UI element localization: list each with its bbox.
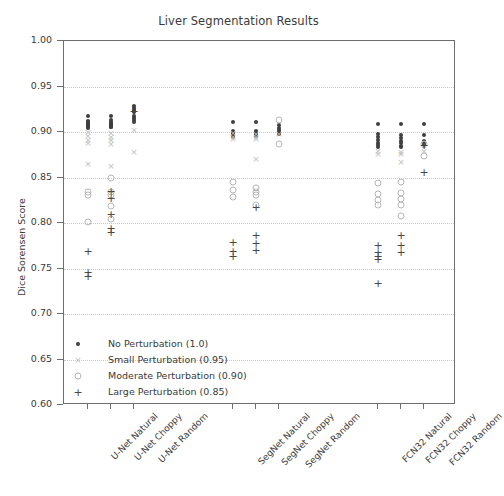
data-point: ×: [107, 139, 116, 148]
gridline: [64, 178, 454, 179]
data-point: [376, 138, 380, 142]
gridline: [64, 223, 454, 224]
data-point: ×: [397, 157, 406, 166]
data-point: [421, 153, 428, 160]
data-point: [86, 121, 90, 125]
data-point: [422, 142, 426, 146]
data-point: ×: [420, 146, 429, 155]
data-point: [254, 133, 258, 137]
data-point: +: [374, 251, 383, 260]
y-axis-tick-label: 0.85: [0, 171, 52, 182]
data-point: [132, 114, 136, 118]
data-point: [422, 122, 426, 126]
legend-label: Large Perturbation (0.85): [108, 384, 228, 400]
data-point: [376, 135, 380, 139]
data-point: ×: [130, 126, 139, 135]
data-point: +: [84, 271, 93, 280]
data-point: ×: [229, 132, 238, 141]
data-point: [422, 139, 426, 143]
data-point: [398, 189, 405, 196]
data-point: +: [107, 223, 116, 232]
y-axis-tick-label: 0.80: [0, 216, 52, 227]
data-point: +: [374, 248, 383, 257]
data-point: [132, 106, 136, 110]
data-point: [231, 120, 235, 124]
data-point: +: [397, 240, 406, 249]
data-point: [109, 118, 113, 122]
data-point: [399, 145, 403, 149]
data-point: [277, 126, 281, 130]
y-axis-tick-label: 0.95: [0, 80, 52, 91]
data-point: [108, 202, 115, 209]
legend-item: ×Small Perturbation (0.95): [72, 352, 262, 368]
data-point: [86, 120, 90, 124]
data-point: [399, 144, 403, 148]
gridline: [64, 87, 454, 88]
y-axis-tick-label: 0.70: [0, 307, 52, 318]
x-axis-tick-mark: [110, 404, 111, 409]
data-point: [376, 145, 380, 149]
data-point: ×: [229, 134, 238, 143]
data-point: [108, 191, 115, 198]
data-point: [86, 123, 90, 127]
y-axis-tick-label: 0.60: [0, 398, 52, 409]
data-point: [109, 124, 113, 128]
data-point: [399, 133, 403, 137]
data-point: ×: [374, 149, 383, 158]
data-point: ×: [397, 150, 406, 159]
data-point: +: [252, 246, 261, 255]
data-point: [86, 126, 90, 130]
data-point: [375, 196, 382, 203]
page-title: Liver Segmentation Results: [0, 14, 477, 28]
data-point: [375, 190, 382, 197]
x-axis-tick-mark: [87, 404, 88, 409]
data-point: ×: [252, 135, 261, 144]
data-point: [253, 201, 260, 208]
x-axis-tick-mark: [278, 404, 279, 409]
data-point: ×: [229, 129, 238, 138]
data-point: ×: [374, 147, 383, 156]
data-point: ×: [252, 155, 261, 164]
legend-item: +Large Perturbation (0.85): [72, 384, 262, 400]
data-point: [109, 125, 113, 129]
x-axis-tick-mark: [232, 404, 233, 409]
data-point: +: [252, 239, 261, 248]
data-point: [108, 188, 115, 195]
data-point: [85, 189, 92, 196]
data-point: [109, 114, 113, 118]
data-point: [132, 118, 136, 122]
data-point: +: [397, 247, 406, 256]
legend-item: No Perturbation (1.0): [72, 336, 262, 352]
data-point: [109, 120, 113, 124]
data-point: [277, 123, 281, 127]
data-point: [86, 119, 90, 123]
y-axis-tick-label: 0.75: [0, 262, 52, 273]
x-axis-tick-mark: [377, 404, 378, 409]
data-point: [376, 143, 380, 147]
gridline: [64, 314, 454, 315]
data-point: +: [107, 187, 116, 196]
data-point: [230, 178, 237, 185]
data-point: [109, 125, 113, 129]
data-point: +: [229, 251, 238, 260]
data-point: [86, 114, 90, 118]
data-point: [399, 136, 403, 140]
data-point: +: [374, 255, 383, 264]
data-point: +: [107, 209, 116, 218]
legend-label: Small Perturbation (0.95): [108, 352, 228, 368]
data-point: [132, 116, 136, 120]
data-point: [398, 212, 405, 219]
data-point: ×: [84, 160, 93, 169]
legend-label: Moderate Perturbation (0.90): [108, 368, 247, 384]
data-point: +: [229, 247, 238, 256]
data-point: [399, 141, 403, 145]
data-point: +: [420, 140, 429, 149]
data-point: [254, 134, 258, 138]
data-point: [375, 179, 382, 186]
data-point: [276, 117, 283, 124]
data-point: +: [420, 168, 429, 177]
data-point: [132, 108, 136, 112]
data-point: [132, 110, 136, 114]
gridline: [64, 269, 454, 270]
